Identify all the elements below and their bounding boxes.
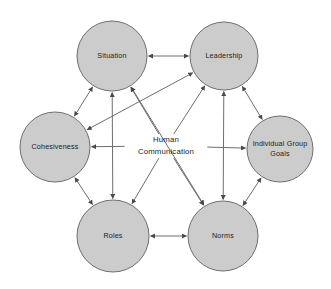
edge-center-norms bbox=[174, 158, 204, 205]
edge-situation-cohesiveness bbox=[74, 87, 92, 116]
edge-center-goals bbox=[207, 147, 245, 148]
edge-center-situation bbox=[131, 87, 159, 134]
node-situation[interactable]: Situation bbox=[77, 21, 147, 91]
node-cohesiveness[interactable]: Cohesiveness bbox=[20, 112, 90, 182]
node-label-individual-group-goals-line2: Goals bbox=[270, 149, 290, 158]
center-node: HumanCommunication bbox=[138, 135, 194, 156]
edge-leadership-goals bbox=[242, 86, 262, 119]
node-label-cohesiveness: Cohesiveness bbox=[32, 142, 79, 151]
diagram-canvas: SituationLeadershipCohesivenessIndividua… bbox=[0, 0, 331, 289]
edge-center-roles bbox=[132, 158, 159, 204]
center-label-group[interactable]: HumanCommunication bbox=[138, 135, 194, 156]
node-label-norms: Norms bbox=[212, 231, 234, 240]
center-label-line1: Human bbox=[153, 135, 179, 144]
node-leadership[interactable]: Leadership bbox=[190, 22, 258, 90]
edge-situation-roles bbox=[112, 93, 113, 199]
edge-center-leadership bbox=[174, 86, 205, 134]
node-individual-group-goals[interactable]: Individual GroupGoals bbox=[247, 116, 313, 182]
edge-goals-norms bbox=[243, 178, 261, 206]
center-label-line2: Communication bbox=[138, 147, 194, 156]
node-label-situation: Situation bbox=[97, 51, 126, 60]
edge-cohesiveness-roles bbox=[75, 178, 93, 205]
node-roles[interactable]: Roles bbox=[77, 200, 149, 272]
node-norms[interactable]: Norms bbox=[188, 201, 258, 271]
edge-leadership-norms bbox=[223, 92, 224, 200]
group-communication-diagram: SituationLeadershipCohesivenessIndividua… bbox=[0, 0, 331, 289]
node-label-individual-group-goals-line1: Individual Group bbox=[253, 139, 308, 148]
node-label-roles: Roles bbox=[103, 231, 122, 240]
node-label-leadership: Leadership bbox=[205, 51, 242, 60]
